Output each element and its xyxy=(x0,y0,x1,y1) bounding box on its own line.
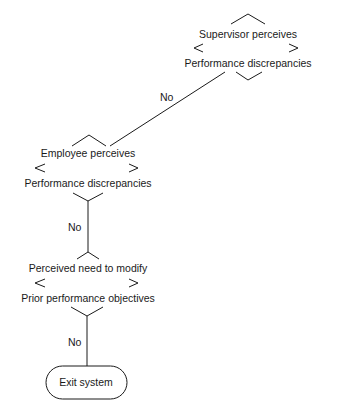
edge-label-d3-exit: No xyxy=(68,337,81,348)
decision-2-top-chevron xyxy=(72,135,106,146)
decision-1-top-chevron xyxy=(231,14,265,24)
decision-2-line2: Performance discrepancies xyxy=(24,178,151,189)
decision-1-line1: Supervisor perceives xyxy=(199,29,297,40)
decision-3-line1: Perceived need to modify xyxy=(29,263,147,274)
decision-2-line1: Employee perceives xyxy=(41,148,136,159)
decision-3-line2: Prior performance objectives xyxy=(21,293,155,304)
decision-1-left-chevron xyxy=(194,44,203,52)
decision-3-left-chevron xyxy=(35,279,45,287)
edge-label-d2-d3: No xyxy=(68,222,81,233)
decision-1-right-chevron xyxy=(289,44,298,52)
exit-terminal-label: Exit system xyxy=(59,377,113,388)
edge-label-d1-d2: No xyxy=(160,92,173,103)
edge-d1-d2 xyxy=(110,72,225,146)
decision-3-right-chevron xyxy=(129,279,138,287)
decision-1-bottom-chevron xyxy=(236,72,262,80)
decision-3-bottom-chevron xyxy=(71,307,103,316)
decision-2-bottom-chevron xyxy=(73,193,103,201)
decision-1-line2: Performance discrepancies xyxy=(184,58,311,69)
decision-3-top-chevron xyxy=(77,252,99,259)
decision-2-left-chevron xyxy=(35,164,45,172)
decision-2-right-chevron xyxy=(129,164,138,172)
